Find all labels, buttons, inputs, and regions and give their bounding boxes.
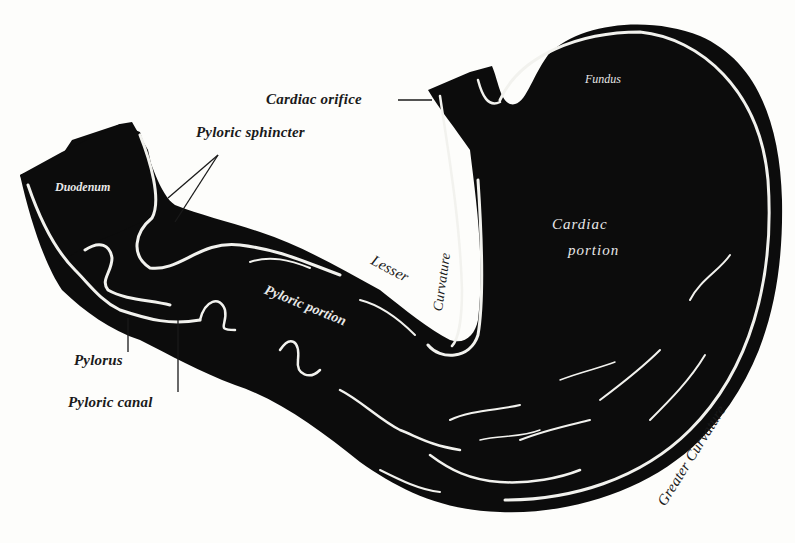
label-pyloric-sphincter: Pyloric sphincter (196, 124, 305, 141)
label-cardiac-orifice: Cardiac orifice (266, 91, 362, 108)
label-cardiac-portion-2: portion (568, 242, 619, 259)
label-cardiac-portion-1: Cardiac (552, 216, 608, 233)
label-pyloric-canal: Pyloric canal (68, 394, 153, 411)
label-duodenum: Duodenum (55, 180, 110, 195)
label-fundus: Fundus (585, 72, 621, 87)
pyloric-sphincter-leader-2 (175, 155, 218, 222)
pyloric-sphincter-leader-1 (168, 155, 218, 198)
label-pylorus: Pylorus (74, 352, 123, 369)
